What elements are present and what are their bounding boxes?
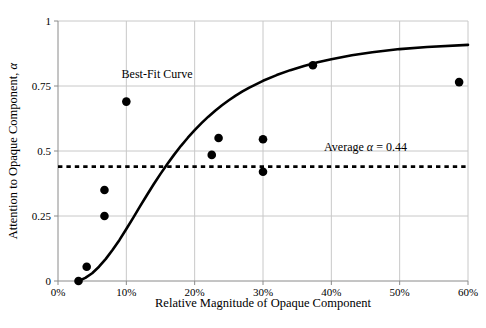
y-tick-label: 0.25 — [32, 210, 52, 222]
data-point — [214, 134, 223, 143]
data-point — [207, 151, 216, 160]
average-annotation-suffix: = 0.44 — [373, 140, 407, 154]
x-tick-label: 0% — [51, 286, 66, 298]
x-axis-title: Relative Magnitude of Opaque Component — [155, 296, 371, 310]
data-point — [122, 97, 131, 106]
chart-figure: 0%10%20%30%40%50%60% 00.250.50.751 Best-… — [0, 0, 486, 328]
x-tick-label: 50% — [390, 286, 410, 298]
data-point — [309, 61, 318, 70]
data-point — [74, 277, 83, 286]
average-annotation-prefix: Average — [324, 140, 367, 154]
y-axis-title-alpha-symbol: α — [6, 62, 20, 69]
y-tick-label: 0.75 — [32, 80, 52, 92]
y-tick-label: 1 — [46, 15, 52, 27]
best-fit-curve-annotation: Best-Fit Curve — [122, 67, 193, 81]
scatter-plot-svg: 0%10%20%30%40%50%60% 00.250.50.751 Best-… — [0, 0, 486, 328]
data-point — [259, 135, 268, 144]
data-point — [455, 78, 464, 87]
y-axis-title: Attention to Opaque Component, α — [6, 62, 20, 239]
y-tick-label: 0 — [46, 275, 52, 287]
y-axis-title-prefix: Attention to Opaque Component, — [6, 69, 20, 239]
average-alpha-annotation: Average α = 0.44 — [324, 140, 407, 154]
data-point — [259, 168, 268, 177]
y-tick-label: 0.5 — [37, 145, 51, 157]
x-tick-label: 60% — [458, 286, 478, 298]
data-point — [82, 262, 91, 271]
data-point — [100, 186, 109, 195]
data-point — [100, 212, 109, 221]
x-tick-label: 10% — [116, 286, 136, 298]
